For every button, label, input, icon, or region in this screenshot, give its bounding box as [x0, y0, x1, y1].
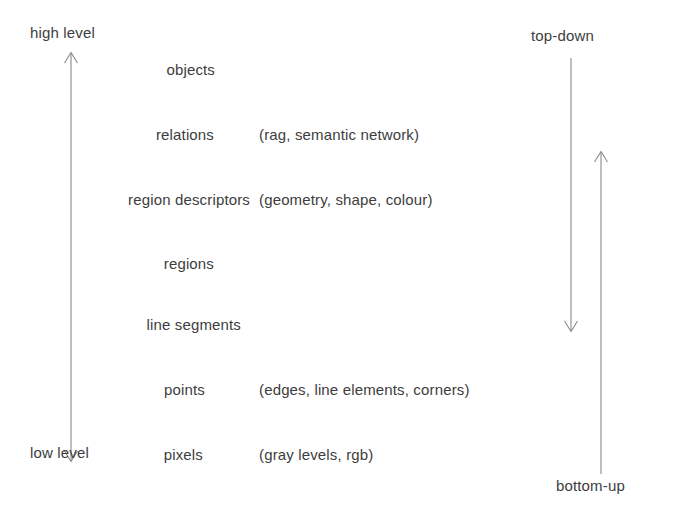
level-name-pixels: pixels [0, 446, 203, 464]
high-level-label: high level [30, 24, 95, 42]
bottom-up-label: bottom-up [556, 477, 625, 495]
level-name-region-descriptors: region descriptors [0, 191, 250, 209]
level-detail-relations: (rag, semantic network) [259, 126, 419, 144]
top-down-label: top-down [531, 27, 594, 45]
top-down-arrowhead [565, 321, 578, 332]
diagram-canvas: high level low level top-down bottom-up … [0, 0, 673, 516]
level-detail-region-descriptors: (geometry, shape, colour) [259, 191, 433, 209]
level-detail-points: (edges, line elements, corners) [259, 381, 470, 399]
level-name-line-segments: line segments [0, 316, 241, 334]
bottom-up-arrowhead [595, 152, 608, 163]
bottom-up-arrow [595, 152, 608, 475]
level-name-points: points [0, 381, 205, 399]
level-name-objects: objects [0, 61, 215, 79]
level-detail-pixels: (gray levels, rgb) [259, 446, 373, 464]
level-name-relations: relations [0, 126, 214, 144]
level-name-regions: regions [0, 255, 214, 273]
top-down-arrow [565, 58, 578, 332]
